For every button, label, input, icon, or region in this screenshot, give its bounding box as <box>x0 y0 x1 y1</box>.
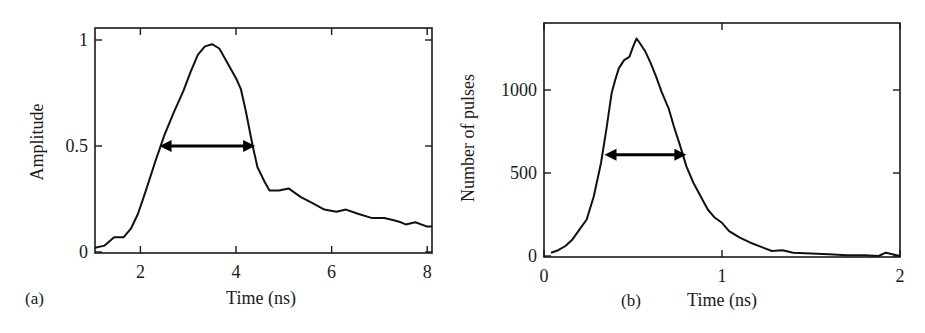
x-tick-label: 2 <box>136 262 145 282</box>
chart-a-ticks <box>95 28 432 253</box>
chart-a-plot-frame <box>95 28 432 253</box>
chart-b-fwhm-double-arrow <box>605 149 687 161</box>
chart-b: 01205001000 Number of pulses Time (ns) (… <box>458 23 905 311</box>
y-tick-label: 1000 <box>501 80 537 100</box>
arrowhead-left-icon <box>605 149 617 161</box>
y-tick-label: 0 <box>528 246 537 266</box>
y-tick-label: 0.5 <box>66 136 89 156</box>
chart-b-y-axis-label: Number of pulses <box>458 74 478 202</box>
y-tick-label: 1 <box>79 30 88 50</box>
x-tick-label: 0 <box>540 266 549 286</box>
chart-b-x-axis-label: Time (ns) <box>687 290 757 311</box>
x-tick-label: 2 <box>896 266 905 286</box>
figure-svg: 246800.51 Amplitude Time (ns) (a) 012050… <box>0 0 925 333</box>
y-tick-label: 0 <box>79 242 88 262</box>
chart-a-panel-label: (a) <box>25 289 44 308</box>
chart-a-y-axis-label: Amplitude <box>27 103 47 180</box>
x-tick-label: 8 <box>423 262 432 282</box>
y-tick-label: 500 <box>510 163 537 183</box>
x-tick-label: 1 <box>718 266 727 286</box>
chart-b-panel-label: (b) <box>621 291 641 310</box>
x-tick-label: 4 <box>232 262 241 282</box>
chart-a-x-axis-label: Time (ns) <box>226 288 296 309</box>
chart-a-fwhm-double-arrow <box>160 140 256 152</box>
x-tick-label: 6 <box>327 262 336 282</box>
chart-a-tick-labels: 246800.51 <box>66 30 432 282</box>
chart-a: 246800.51 Amplitude Time (ns) (a) <box>25 28 432 309</box>
chart-b-pulse-count-line <box>551 39 900 257</box>
chart-a-amplitude-line <box>95 44 432 248</box>
